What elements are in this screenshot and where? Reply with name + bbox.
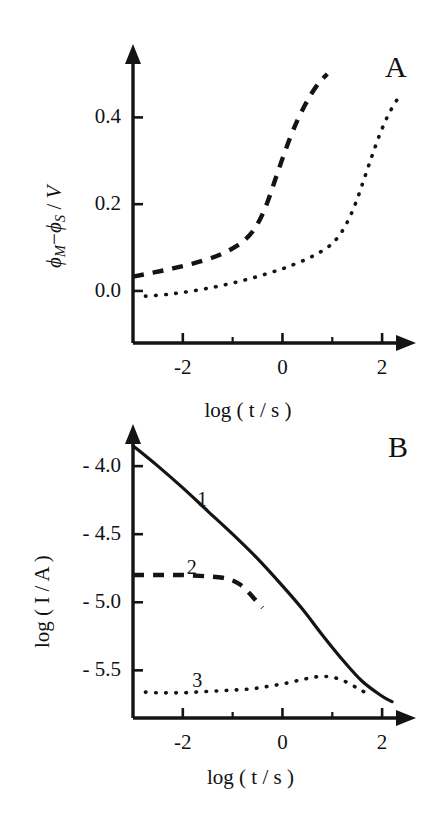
panel-b-letter: B: [388, 432, 408, 462]
panel-b-ytick-label: - 4.5: [33, 523, 121, 544]
slash-separator: /: [42, 198, 66, 214]
panel-b-ytick-label: - 4.0: [33, 455, 121, 476]
panel-a-xtick-label: 2: [357, 357, 407, 378]
figure-container: 0.4 0.2 0.0 -2 0 2 ϕM−ϕS / V A log ( t /…: [0, 0, 441, 821]
panel-b-xtick-label: 2: [357, 732, 407, 753]
panel-a-ytick-label: 0.4: [41, 106, 121, 127]
panel-b-xtick-label: 0: [257, 732, 307, 753]
panel-b-y-axis-title: log ( I / A ): [30, 555, 55, 648]
panel-b-curve-label-1: 1: [197, 489, 207, 509]
panel-a-letter: A: [385, 52, 407, 82]
panel-b: - 4.0 - 4.5 - 5.0 - 5.5 -2 0 2 log ( I /…: [0, 400, 441, 821]
panel-a-ytick-label: 0.0: [41, 280, 121, 301]
panel-b-ytick-label: - 5.5: [33, 659, 121, 680]
phi-m-subscript: M: [52, 245, 68, 257]
panel-b-curve-label-3: 3: [192, 670, 202, 690]
panel-b-curve-label-2: 2: [187, 557, 197, 577]
phi-s-subscript: S: [52, 215, 68, 222]
phi-s-symbol: ϕ: [42, 222, 66, 233]
phi-m-symbol: ϕ: [42, 257, 66, 268]
panel-a-y-axis-title: ϕM−ϕS / V: [42, 186, 69, 268]
panel-b-x-axis-title: log ( t / s ): [207, 765, 294, 790]
panel-a-xtick-label: 0: [257, 357, 307, 378]
panel-a-xtick-label: -2: [158, 357, 208, 378]
volt-unit: V: [42, 186, 66, 199]
panel-b-xtick-label: -2: [158, 732, 208, 753]
minus-sign: −: [42, 233, 66, 245]
panel-a: 0.4 0.2 0.0 -2 0 2 ϕM−ϕS / V A: [0, 0, 441, 410]
